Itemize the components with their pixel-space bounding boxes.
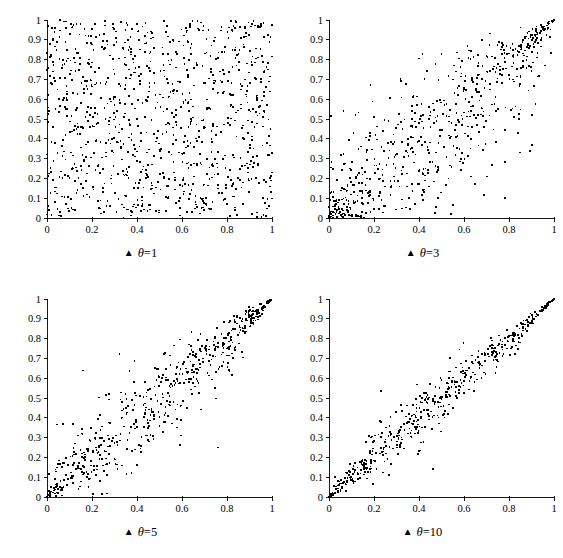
triangle-marker-icon: ▲ — [403, 526, 413, 537]
y-tick-label: 0.5 — [310, 114, 323, 125]
triangle-marker-icon: ▲ — [124, 247, 134, 258]
y-tick-label: 0.8 — [310, 54, 323, 65]
axis-lines — [47, 20, 272, 218]
y-tick-label: 0.9 — [28, 313, 41, 324]
y-tick-label: 0.4 — [310, 133, 324, 144]
y-tick-label: 0.1 — [28, 472, 41, 483]
caption-value: 1 — [151, 246, 157, 260]
scatter-panel-theta-1: 00.10.20.30.40.50.60.70.80.9100.20.40.60… — [0, 0, 281, 279]
y-tick-label: 1 — [318, 15, 323, 26]
x-tick-label: 0 — [326, 224, 331, 235]
y-tick-label: 1 — [36, 15, 41, 26]
y-tick-label: 0.8 — [28, 333, 41, 344]
y-tick-label: 0.7 — [310, 353, 323, 364]
plot-canvas-theta-1: 00.10.20.30.40.50.60.70.80.9100.20.40.60… — [0, 0, 281, 279]
x-tick-label: 0.2 — [367, 503, 380, 514]
triangle-marker-icon: ▲ — [124, 526, 134, 537]
caption-equals: = — [144, 525, 151, 539]
scatter-point-group — [328, 298, 554, 497]
scatter-plot-figure: 00.10.20.30.40.50.60.70.80.9100.20.40.60… — [0, 0, 563, 558]
y-tick-label: 0.7 — [310, 74, 323, 85]
x-tick-label: 0.6 — [457, 224, 470, 235]
plot-canvas-theta-5: 00.10.20.30.40.50.60.70.80.9100.20.40.60… — [0, 279, 281, 558]
x-tick-label: 0.8 — [502, 503, 515, 514]
panel-caption-theta-1: ▲θ=1 — [0, 246, 281, 261]
y-tick-label: 0.6 — [28, 373, 41, 384]
y-tick-label: 0.7 — [28, 353, 41, 364]
caption-equals: = — [426, 246, 433, 260]
x-tick-label: 0.4 — [130, 503, 144, 514]
caption-value: 3 — [433, 246, 439, 260]
y-tick-label: 0.3 — [28, 432, 41, 443]
plot-canvas-theta-10: 00.10.20.30.40.50.60.70.80.9100.20.40.60… — [282, 279, 563, 558]
caption-equals: = — [423, 525, 430, 539]
y-tick-label: 0.5 — [28, 114, 41, 125]
y-tick-label: 0.9 — [310, 34, 323, 45]
x-tick-label: 0.8 — [502, 224, 515, 235]
x-tick-label: 0.6 — [175, 224, 188, 235]
plot-canvas-theta-3: 00.10.20.30.40.50.60.70.80.9100.20.40.60… — [282, 0, 563, 279]
y-tick-label: 0.4 — [28, 133, 42, 144]
x-tick-label: 0.6 — [175, 503, 188, 514]
caption-equals: = — [144, 246, 151, 260]
y-tick-label: 0.4 — [310, 412, 324, 423]
x-tick-label: 0.6 — [457, 503, 470, 514]
x-tick-label: 0.4 — [130, 224, 144, 235]
scatter-point-group — [328, 19, 555, 219]
x-tick-label: 0 — [326, 503, 331, 514]
x-tick-label: 1 — [269, 224, 274, 235]
x-tick-label: 0.4 — [412, 503, 426, 514]
y-tick-label: 0 — [36, 213, 41, 224]
y-tick-label: 0.5 — [28, 393, 41, 404]
caption-value: 5 — [151, 525, 157, 539]
y-tick-label: 0.7 — [28, 74, 41, 85]
y-tick-label: 0.2 — [28, 173, 41, 184]
x-tick-label: 0.2 — [85, 224, 98, 235]
y-tick-label: 0.1 — [310, 472, 323, 483]
y-tick-label: 0.6 — [310, 373, 323, 384]
x-tick-label: 0.2 — [85, 503, 98, 514]
panel-caption-theta-10: ▲θ=10 — [282, 525, 563, 540]
y-tick-label: 0 — [318, 213, 323, 224]
y-tick-label: 0 — [36, 492, 41, 503]
y-tick-label: 0.2 — [310, 452, 323, 463]
axis-lines — [47, 299, 272, 497]
y-tick-label: 0.9 — [310, 313, 323, 324]
x-tick-label: 0 — [44, 503, 49, 514]
scatter-point-group — [46, 19, 273, 219]
y-tick-label: 0.8 — [310, 333, 323, 344]
x-tick-label: 1 — [269, 503, 274, 514]
y-tick-label: 0.3 — [310, 153, 323, 164]
y-tick-label: 0.6 — [28, 94, 41, 105]
y-tick-label: 0.1 — [28, 193, 41, 204]
scatter-panel-theta-3: 00.10.20.30.40.50.60.70.80.9100.20.40.60… — [282, 0, 563, 279]
y-tick-label: 0.4 — [28, 412, 42, 423]
x-tick-label: 1 — [551, 503, 556, 514]
panel-caption-theta-3: ▲θ=3 — [282, 246, 563, 261]
y-tick-label: 0.3 — [310, 432, 323, 443]
scatter-point-group — [46, 299, 272, 498]
y-tick-label: 0.2 — [28, 452, 41, 463]
y-tick-label: 0.2 — [310, 173, 323, 184]
y-tick-label: 0.6 — [310, 94, 323, 105]
scatter-panel-theta-5: 00.10.20.30.40.50.60.70.80.9100.20.40.60… — [0, 279, 281, 558]
y-tick-label: 0.3 — [28, 153, 41, 164]
x-tick-label: 1 — [551, 224, 556, 235]
x-tick-label: 0.8 — [220, 224, 233, 235]
y-tick-label: 1 — [318, 294, 323, 305]
y-tick-label: 1 — [36, 294, 41, 305]
x-tick-label: 0.2 — [367, 224, 380, 235]
x-tick-label: 0.8 — [220, 503, 233, 514]
y-tick-label: 0.5 — [310, 393, 323, 404]
x-tick-label: 0 — [44, 224, 49, 235]
scatter-panel-theta-10: 00.10.20.30.40.50.60.70.80.9100.20.40.60… — [282, 279, 563, 558]
y-tick-label: 0 — [318, 492, 323, 503]
y-tick-label: 0.8 — [28, 54, 41, 65]
panel-caption-theta-5: ▲θ=5 — [0, 525, 281, 540]
y-tick-label: 0.1 — [310, 193, 323, 204]
x-tick-label: 0.4 — [412, 224, 426, 235]
triangle-marker-icon: ▲ — [406, 247, 416, 258]
caption-value: 10 — [430, 525, 443, 539]
y-tick-label: 0.9 — [28, 34, 41, 45]
